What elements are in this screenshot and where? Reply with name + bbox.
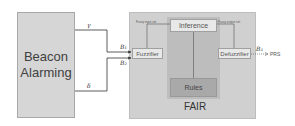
gamma-signal-label: γ — [87, 21, 91, 28]
delta-signal-label: δ — [87, 82, 91, 89]
prs-output-label: PRS — [270, 51, 280, 57]
fuzzy-output-set-label: Fuzzy output set — [218, 20, 240, 24]
fuzzy-input-set-label: Fuzzy input set — [136, 20, 156, 24]
b2-signal-label: B₂ — [120, 59, 127, 66]
b3-signal-label: B₃ — [256, 45, 263, 52]
b1-signal-label: B₁ — [120, 43, 127, 50]
connector-lines — [0, 0, 295, 126]
